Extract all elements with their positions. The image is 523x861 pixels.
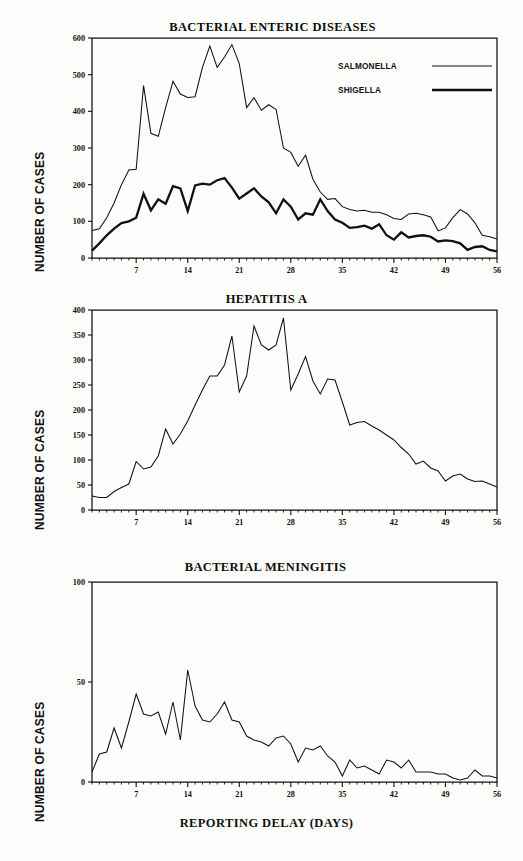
chart-panel-bacterial-enteric-diseases: BACTERIAL ENTERIC DISEASES NUMBER OF CAS… [0,20,523,285]
x-tick-label: 21 [235,790,243,799]
x-tick-label: 28 [287,518,295,527]
x-tick-label: 21 [235,266,243,275]
y-tick-label: 350 [73,331,85,340]
x-tick-label: 49 [441,266,449,275]
x-tick-label: 56 [493,266,501,275]
figure-canvas: BACTERIAL ENTERIC DISEASES NUMBER OF CAS… [0,0,523,861]
x-tick-label: 14 [184,518,192,527]
x-tick-label: 42 [390,790,398,799]
y-tick-label: 300 [73,356,85,365]
x-tick-label: 7 [134,266,138,275]
y-tick-label: 200 [73,406,85,415]
y-tick-label: 200 [73,181,85,190]
y-tick-label: 500 [73,71,85,80]
x-tick-label: 42 [390,266,398,275]
x-tick-label: 35 [338,790,346,799]
legend-label-shigella: SHIGELLA [338,86,381,95]
y-tick-label: 0 [81,778,85,787]
y-tick-label: 0 [81,254,85,263]
y-tick-label: 100 [73,217,85,226]
legend-label-salmonella: SALMONELLA [338,62,397,71]
x-tick-label: 49 [441,518,449,527]
y-tick-label: 100 [73,456,85,465]
x-axis-label: REPORTING DELAY (DAYS) [0,816,523,831]
plot-area-bacterial-enteric-diseases: 0100200300400500600714212835424956SALMON… [0,20,523,285]
chart-panel-bacterial-meningitis: BACTERIAL MENINGITIS NUMBER OF CASES 050… [0,560,523,850]
y-tick-label: 50 [77,678,85,687]
x-tick-label: 7 [134,518,138,527]
x-tick-label: 21 [235,518,243,527]
y-tick-label: 400 [73,306,85,315]
y-tick-label: 100 [73,578,85,587]
x-tick-label: 28 [287,790,295,799]
y-tick-label: 400 [73,107,85,116]
x-tick-label: 14 [184,790,192,799]
y-tick-label: 600 [73,34,85,43]
plot-area-bacterial-meningitis: 050100714212835424956 [0,560,523,816]
series-line-salmonella [92,45,497,239]
y-tick-label: 150 [73,431,85,440]
x-tick-label: 28 [287,266,295,275]
y-tick-label: 250 [73,381,85,390]
x-tick-label: 49 [441,790,449,799]
x-tick-label: 14 [184,266,192,275]
plot-area-hepatitis-a: 050100150200250300350400714212835424956 [0,292,523,550]
x-tick-label: 35 [338,266,346,275]
y-tick-label: 0 [81,506,85,515]
x-tick-label: 7 [134,790,138,799]
y-tick-label: 300 [73,144,85,153]
x-tick-label: 56 [493,790,501,799]
series-line-bacterial-meningitis [92,670,497,780]
x-tick-label: 35 [338,518,346,527]
y-tick-label: 50 [77,481,85,490]
x-tick-label: 42 [390,518,398,527]
series-line-shigella [92,178,497,251]
x-tick-label: 56 [493,518,501,527]
series-line-hepatitis-a [92,318,497,498]
chart-panel-hepatitis-a: HEPATITIS A NUMBER OF CASES 050100150200… [0,292,523,550]
